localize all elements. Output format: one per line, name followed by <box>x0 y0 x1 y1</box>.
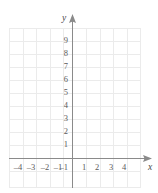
x-tick-label: 2 <box>92 163 102 172</box>
y-tick-label: 5 <box>57 88 68 97</box>
x-tick-label: –2 <box>38 163 52 172</box>
y-tick-label: 4 <box>57 101 68 110</box>
x-axis-line <box>9 155 152 162</box>
y-tick-label: 8 <box>57 49 68 58</box>
x-tick-label: –1 <box>51 163 65 172</box>
x-tick-label: –4 <box>11 163 25 172</box>
x-tick-label: 3 <box>106 163 116 172</box>
x-axis-label: x <box>148 163 152 173</box>
x-tick-label: –3 <box>24 163 38 172</box>
x-tick-label: 4 <box>119 163 129 172</box>
y-axis-line <box>69 14 76 188</box>
coordinate-plane-figure: y x 9 8 7 6 5 4 3 2 1 –1 –4 –3 –2 –1 1 2… <box>0 0 158 193</box>
x-tick-label: 1 <box>79 163 89 172</box>
y-tick-label: 6 <box>57 75 68 84</box>
y-tick-label: 7 <box>57 62 68 71</box>
y-axis-label: y <box>62 14 66 24</box>
y-tick-label: 1 <box>57 140 68 149</box>
y-tick-label: 9 <box>57 36 68 45</box>
y-tick-label: 3 <box>57 114 68 123</box>
y-tick-label: 2 <box>57 127 68 136</box>
